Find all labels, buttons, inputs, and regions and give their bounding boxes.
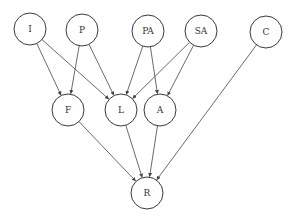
node-sa: SA xyxy=(185,15,217,47)
node-pa: PA xyxy=(132,15,164,47)
node-i: I xyxy=(14,13,46,45)
edge-pa-to-a xyxy=(150,47,157,94)
node-label: I xyxy=(28,24,32,34)
edge-a-to-r xyxy=(150,126,158,177)
node-label: P xyxy=(79,25,85,35)
edge-p-to-l xyxy=(89,44,114,95)
edge-i-to-f xyxy=(37,44,61,96)
edge-pa-to-l xyxy=(126,46,143,94)
node-label: PA xyxy=(142,26,154,36)
node-l: L xyxy=(105,94,137,126)
node-label: F xyxy=(65,105,71,115)
node-label: L xyxy=(118,105,124,115)
edge-l-to-r xyxy=(126,125,142,177)
node-label: C xyxy=(263,27,270,37)
node-label: SA xyxy=(195,26,208,36)
node-r: R xyxy=(131,177,163,209)
edge-sa-to-a xyxy=(168,45,194,95)
node-p: P xyxy=(66,14,98,46)
dependency-graph: IPPASACFLAR xyxy=(0,0,294,221)
node-label: R xyxy=(144,188,151,198)
node-c: C xyxy=(250,16,282,48)
nodes-layer: IPPASACFLAR xyxy=(14,13,282,209)
diagram-canvas: IPPASACFLAR xyxy=(0,0,294,221)
node-label: A xyxy=(156,105,164,115)
node-f: F xyxy=(52,94,84,126)
edge-p-to-f xyxy=(71,46,79,94)
node-a: A xyxy=(144,94,176,126)
